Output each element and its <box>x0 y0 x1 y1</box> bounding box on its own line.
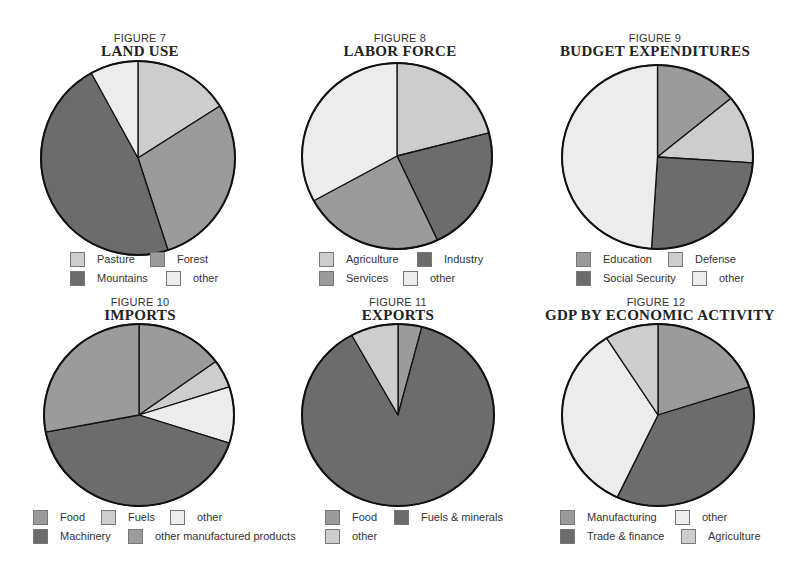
figure-9-budget-expenditures: FIGURE 9 BUDGET EXPENDITURES Education D… <box>555 0 755 295</box>
pie-chart <box>39 59 237 257</box>
legend-swatch <box>692 271 707 286</box>
legend-swatch <box>394 510 409 525</box>
legend-swatch <box>576 252 591 267</box>
pie-chart <box>560 63 755 251</box>
pie-chart <box>42 322 236 508</box>
legend-swatch <box>560 529 575 544</box>
pie-chart <box>560 322 756 508</box>
pie-slice <box>562 65 658 249</box>
pie-slice <box>652 157 753 249</box>
legend-swatch <box>319 271 334 286</box>
figure-8-labor-force: FIGURE 8 LABOR FORCE Agriculture Industr… <box>290 0 510 295</box>
legend: Manufacturing other Trade & finance Agri… <box>560 510 800 550</box>
figure-10-imports: FIGURE 10 IMPORTS Food Fuels other Machi… <box>20 295 310 555</box>
figure-title: LABOR FORCE <box>290 43 510 60</box>
legend: Food Fuels & minerals other <box>325 510 525 550</box>
legend-swatch <box>150 252 165 267</box>
legend-swatch <box>319 252 334 267</box>
legend-swatch <box>166 271 181 286</box>
pie-chart <box>300 61 494 251</box>
figure-11-exports: FIGURE 11 EXPORTS Food Fuels & minerals … <box>300 295 530 555</box>
figure-title: BUDGET EXPENDITURES <box>555 43 755 60</box>
legend: Education Defense Social Security other <box>576 252 766 292</box>
legend-swatch <box>101 510 116 525</box>
legend: Agriculture Industry Services other <box>319 252 509 292</box>
pie-slice <box>44 324 139 432</box>
legend: Pasture Forest Mountains other <box>70 252 250 292</box>
legend-swatch <box>325 510 340 525</box>
legend-swatch <box>70 252 85 267</box>
legend-swatch <box>403 271 418 286</box>
legend-swatch <box>70 271 85 286</box>
figure-7-land-use: FIGURE 7 LAND USE Pasture Forest Mountai… <box>30 0 250 295</box>
legend-swatch <box>675 510 690 525</box>
pie-chart <box>300 322 496 508</box>
legend-swatch <box>417 252 432 267</box>
legend-swatch <box>33 510 48 525</box>
legend-swatch <box>170 510 185 525</box>
legend-swatch <box>668 252 683 267</box>
figure-title: LAND USE <box>30 43 250 60</box>
legend-swatch <box>325 529 340 544</box>
legend-swatch <box>560 510 575 525</box>
legend: Food Fuels other Machinery other manufac… <box>33 510 313 550</box>
figure-12-gdp-by-economic-activity: FIGURE 12 GDP BY ECONOMIC ACTIVITY Manuf… <box>545 295 800 555</box>
legend-swatch <box>576 271 591 286</box>
legend-swatch <box>681 529 696 544</box>
legend-swatch <box>128 529 143 544</box>
legend-swatch <box>33 529 48 544</box>
